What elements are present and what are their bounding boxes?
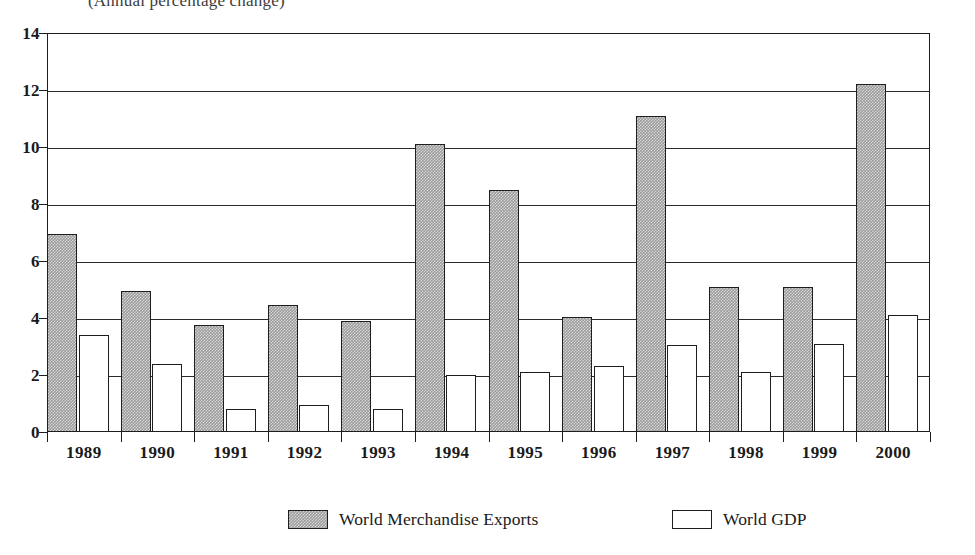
legend-swatch-gdp <box>672 510 712 529</box>
x-axis-label: 1994 <box>434 443 470 463</box>
legend-swatch-exports <box>288 510 328 529</box>
bar-group <box>341 33 415 432</box>
y-axis-label: 2 <box>0 367 40 384</box>
bar-gdp <box>520 372 550 432</box>
bar-gdp <box>667 345 697 432</box>
y-axis-label: 6 <box>0 253 40 270</box>
x-axis-tick <box>47 432 48 442</box>
bar-exports <box>783 287 813 432</box>
x-axis-tick <box>341 432 342 442</box>
bar-gdp <box>888 315 918 432</box>
bar-group <box>562 33 636 432</box>
bar-group <box>856 33 930 432</box>
chart-legend: World Merchandise ExportsWorld GDP <box>0 505 975 535</box>
bar-gdp <box>299 405 329 432</box>
y-axis-label: 4 <box>0 310 40 327</box>
y-axis-label: 12 <box>0 82 40 99</box>
x-axis-label: 1992 <box>287 443 323 463</box>
bar-gdp <box>594 366 624 432</box>
chart-subtitle: (Annual percentage change) <box>88 0 285 11</box>
bar-gdp <box>741 372 771 432</box>
x-axis-tick <box>194 432 195 442</box>
legend-label: World GDP <box>723 509 807 530</box>
bar-exports <box>194 325 224 432</box>
bar-chart: (Annual percentage change) 02468101214 1… <box>0 0 975 555</box>
bar-group <box>47 33 121 432</box>
bar-exports <box>415 144 445 432</box>
bar-group <box>194 33 268 432</box>
bar-group <box>709 33 783 432</box>
x-axis-tick <box>121 432 122 442</box>
x-axis-label: 1996 <box>581 443 617 463</box>
x-axis-label: 2000 <box>875 443 911 463</box>
bar-group <box>783 33 857 432</box>
x-axis-label: 1995 <box>507 443 543 463</box>
bar-gdp <box>373 409 403 432</box>
legend-entry: World GDP <box>672 509 807 530</box>
y-axis-label: 0 <box>0 424 40 441</box>
x-axis-label: 1997 <box>655 443 691 463</box>
bar-gdp <box>446 375 476 432</box>
y-axis-label: 8 <box>0 196 40 213</box>
bar-gdp <box>226 409 256 432</box>
x-axis-label: 1991 <box>213 443 249 463</box>
x-axis-label: 1990 <box>140 443 176 463</box>
x-axis-tick <box>268 432 269 442</box>
x-axis-tick <box>415 432 416 442</box>
bar-gdp <box>152 364 182 432</box>
x-axis-tick <box>709 432 710 442</box>
x-axis-tick <box>930 432 931 442</box>
x-axis-tick <box>783 432 784 442</box>
bar-exports <box>856 84 886 432</box>
x-axis-label: 1999 <box>802 443 838 463</box>
x-axis-tick <box>636 432 637 442</box>
x-axis-label: 1993 <box>360 443 396 463</box>
y-axis-label: 14 <box>0 25 40 42</box>
bar-group <box>636 33 710 432</box>
legend-label: World Merchandise Exports <box>339 509 538 530</box>
bars-layer <box>47 33 930 432</box>
bar-group <box>268 33 342 432</box>
bar-exports <box>636 116 666 432</box>
x-axis-label: 1989 <box>66 443 102 463</box>
bar-group <box>489 33 563 432</box>
bar-exports <box>268 305 298 432</box>
bar-exports <box>709 287 739 432</box>
bar-exports <box>341 321 371 432</box>
x-axis-label: 1998 <box>728 443 764 463</box>
y-axis-label: 10 <box>0 139 40 156</box>
x-axis-tick <box>489 432 490 442</box>
legend-entry: World Merchandise Exports <box>288 509 538 530</box>
x-axis-tick <box>562 432 563 442</box>
bar-exports <box>489 190 519 432</box>
bar-gdp <box>79 335 109 432</box>
bar-group <box>415 33 489 432</box>
bar-gdp <box>814 344 844 432</box>
bar-exports <box>121 291 151 432</box>
bar-exports <box>562 317 592 432</box>
x-axis-tick <box>856 432 857 442</box>
bar-group <box>121 33 195 432</box>
bar-exports <box>47 234 77 432</box>
